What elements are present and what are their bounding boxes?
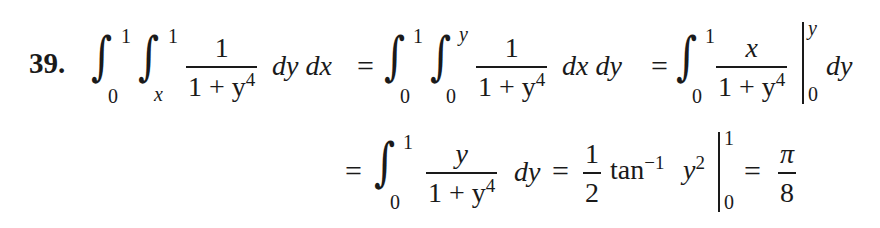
- lower-limit: 0: [108, 86, 118, 106]
- equals-sign: =: [357, 51, 374, 81]
- numerator: x: [743, 34, 759, 62]
- exponent: 4: [486, 174, 496, 195]
- equals-sign: =: [651, 51, 668, 81]
- upper-limit: 1: [705, 26, 715, 46]
- fraction: 1 1 + y4: [186, 34, 257, 101]
- den-base: 1 + y: [188, 71, 246, 102]
- integral-sign: ∫: [138, 30, 159, 82]
- denominator: 1 + y4: [716, 73, 787, 101]
- argument: y2: [683, 156, 705, 184]
- problem-number: 39.: [29, 49, 65, 78]
- numerator: π: [778, 140, 796, 168]
- den-base: 1 + y: [478, 71, 536, 102]
- fraction-bar: [778, 172, 796, 174]
- upper-limit: 1: [403, 132, 413, 152]
- den-base: 1 + y: [428, 177, 486, 208]
- fraction-half: 1 2: [583, 140, 601, 207]
- eval-lower: 0: [808, 84, 818, 104]
- upper-limit: 1: [413, 26, 423, 46]
- numerator: 1: [583, 140, 601, 168]
- exponent: 4: [776, 68, 786, 89]
- integral-sign: ∫: [374, 136, 395, 188]
- differential: dy dx: [272, 52, 332, 80]
- lower-limit: 0: [400, 86, 410, 106]
- fraction: x 1 + y4: [716, 34, 787, 101]
- lower-limit: x: [154, 84, 163, 104]
- function-name: tan−1: [610, 156, 664, 184]
- den-base: 1 + y: [718, 71, 776, 102]
- lower-limit: 0: [390, 192, 400, 212]
- denominator: 1 + y4: [186, 73, 257, 101]
- arg-exponent: 2: [695, 152, 705, 173]
- result-fraction: π 8: [778, 140, 796, 207]
- integral-sign: ∫: [91, 30, 112, 82]
- numerator: 1: [213, 34, 231, 62]
- evaluation-bar: [802, 22, 804, 104]
- arg-base: y: [683, 154, 695, 185]
- equals-sign: =: [552, 156, 569, 186]
- numerator: y: [453, 140, 469, 168]
- tan: tan: [610, 154, 644, 185]
- numerator: 1: [503, 34, 521, 62]
- fraction-bar: [583, 172, 601, 174]
- denominator: 2: [583, 179, 601, 207]
- differential: dy: [514, 158, 540, 186]
- evaluation-bar: [718, 132, 720, 212]
- denominator: 8: [778, 179, 796, 207]
- differential: dx dy: [562, 52, 622, 80]
- integral-sign: ∫: [384, 30, 405, 82]
- fraction: y 1 + y4: [426, 140, 497, 207]
- denominator: 1 + y4: [426, 179, 497, 207]
- upper-limit: 1: [168, 26, 178, 46]
- eval-upper: y: [808, 18, 817, 38]
- differential: dy: [826, 52, 852, 80]
- upper-limit: 1: [121, 26, 131, 46]
- integral-sign: ∫: [430, 30, 451, 82]
- lower-limit: 0: [446, 86, 456, 106]
- inverse-exponent: −1: [644, 152, 664, 173]
- integral-sign: ∫: [676, 30, 697, 82]
- fraction: 1 1 + y4: [476, 34, 547, 101]
- eval-lower: 0: [724, 192, 734, 212]
- denominator: 1 + y4: [476, 73, 547, 101]
- lower-limit: 0: [692, 86, 702, 106]
- equals-sign: =: [345, 156, 362, 186]
- exponent: 4: [246, 68, 256, 89]
- exponent: 4: [536, 68, 546, 89]
- eval-upper: 1: [724, 128, 734, 148]
- equals-sign: =: [744, 156, 761, 186]
- upper-limit: y: [459, 24, 468, 44]
